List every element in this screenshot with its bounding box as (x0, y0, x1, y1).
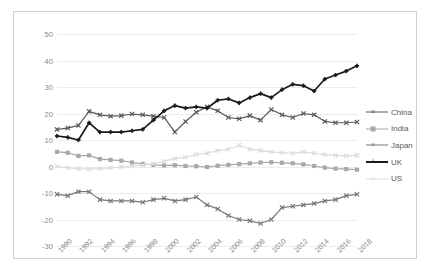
legend-item-us[interactable]: ×US (366, 170, 428, 187)
series-marker-india (162, 163, 166, 167)
series-marker-uk (226, 97, 230, 101)
y-axis-tick-label: 20 (27, 110, 53, 119)
legend-label: China (388, 108, 412, 117)
legend: ×ChinaIndia×Japan+UK×US (366, 104, 428, 187)
legend-item-china[interactable]: ×China (366, 104, 428, 121)
y-axis-tick-label: 50 (27, 30, 53, 39)
chart-frame: 50403020100-10-20-30 1990199219941996199… (13, 11, 417, 259)
series-marker-india (355, 168, 359, 172)
series-marker-india (344, 167, 348, 171)
legend-item-uk[interactable]: +UK (366, 154, 428, 171)
series-marker-uk (130, 129, 134, 133)
y-axis-tick-label: -10 (27, 189, 53, 198)
y-axis-tick-label: 40 (27, 57, 53, 66)
series-marker-india (183, 164, 187, 168)
series-marker-india (248, 161, 252, 165)
series-marker-uk (333, 73, 337, 77)
series-marker-india (323, 165, 327, 169)
x-axis-tick-label: 2018 (356, 237, 374, 255)
series-marker-uk (108, 130, 112, 134)
legend-label: UK (388, 158, 402, 167)
series-marker-india (76, 154, 80, 158)
series-line-japan (57, 192, 357, 224)
series-marker-uk (194, 105, 198, 109)
plot-area: 50403020100-10-20-30 1990199219941996199… (57, 34, 357, 246)
series-marker-uk (66, 135, 70, 139)
series-marker-china (269, 107, 273, 111)
series-marker-india (258, 160, 262, 164)
series-marker-india (333, 167, 337, 171)
series-marker-uk (119, 130, 123, 134)
legend-label: US (388, 174, 402, 183)
series-marker-india (226, 163, 230, 167)
series-marker-india (55, 150, 59, 154)
series-marker-china (194, 110, 198, 114)
legend-marker-icon: × (366, 139, 388, 151)
chart-screenshot: 50403020100-10-20-30 1990199219941996199… (0, 0, 430, 277)
y-axis-tick-label: 10 (27, 136, 53, 145)
series-marker-india (291, 161, 295, 165)
y-axis-tick-label: 30 (27, 83, 53, 92)
series-marker-india (119, 159, 123, 163)
series-marker-china (173, 130, 177, 134)
legend-marker-icon: + (366, 156, 388, 168)
legend-label: Japan (388, 141, 413, 150)
legend-marker-icon (366, 123, 388, 135)
series-marker-india (312, 164, 316, 168)
legend-item-japan[interactable]: ×Japan (366, 137, 428, 154)
legend-item-india[interactable]: India (366, 121, 428, 138)
series-line-china (57, 107, 357, 132)
series-marker-india (301, 162, 305, 166)
series-marker-uk (183, 106, 187, 110)
legend-label: India (388, 124, 408, 133)
series-marker-india (87, 153, 91, 157)
series-marker-china (183, 119, 187, 123)
series-marker-uk (55, 134, 59, 138)
y-axis-tick-label: -20 (27, 216, 53, 225)
series-marker-india (98, 157, 102, 161)
series-marker-india (237, 162, 241, 166)
series-marker-india (108, 158, 112, 162)
series-marker-india (280, 161, 284, 165)
series-marker-india (173, 163, 177, 167)
y-axis-tick-label: -30 (27, 242, 53, 251)
series-marker-india (205, 165, 209, 169)
series-marker-india (66, 151, 70, 155)
series-marker-india (194, 164, 198, 168)
series-lines (57, 34, 357, 246)
series-marker-uk (258, 92, 262, 96)
series-marker-india (216, 164, 220, 168)
y-axis-tick-label: 0 (27, 163, 53, 172)
series-line-uk (57, 66, 357, 140)
legend-marker-icon: × (366, 173, 388, 185)
legend-marker-icon: × (366, 106, 388, 118)
series-marker-india (269, 160, 273, 164)
